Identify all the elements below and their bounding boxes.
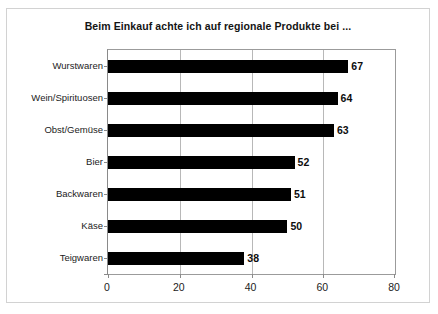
- y-tick-6: [104, 258, 108, 259]
- bar-value-label: 67: [351, 60, 363, 73]
- y-tick-4: [104, 194, 108, 195]
- bar-value-label: 51: [294, 188, 306, 201]
- category-label: Teigwaren: [60, 251, 103, 264]
- bar-value-label: 50: [290, 220, 302, 233]
- bar: [108, 252, 244, 265]
- x-tick-20: [180, 274, 181, 278]
- bar-value-label: 64: [341, 92, 353, 105]
- x-tick-label: 40: [245, 281, 257, 293]
- bar-value-label: 63: [337, 124, 349, 137]
- category-label: Wurstwaren: [52, 59, 103, 72]
- bar: [108, 220, 287, 233]
- category-label: Wein/Spirituosen: [31, 91, 103, 104]
- plot-area: 67646352515038: [107, 49, 396, 275]
- x-tick-label: 0: [104, 281, 110, 293]
- x-tick-0: [108, 274, 109, 278]
- bar: [108, 60, 348, 73]
- x-tick-label: 80: [388, 281, 400, 293]
- chart-title: Beim Einkauf achte ich auf regionale Pro…: [7, 20, 429, 32]
- x-tick-label: 60: [316, 281, 328, 293]
- x-tick-40: [252, 274, 253, 278]
- gridline-x-60: [323, 50, 324, 274]
- y-tick-1: [104, 98, 108, 99]
- bar: [108, 124, 334, 137]
- category-label: Käse: [81, 219, 103, 232]
- y-tick-5: [104, 226, 108, 227]
- bar-value-label: 38: [247, 252, 259, 265]
- category-label: Backwaren: [56, 187, 103, 200]
- y-tick-0: [104, 66, 108, 67]
- bar: [108, 92, 338, 105]
- bar-value-label: 52: [298, 156, 310, 169]
- bar: [108, 156, 295, 169]
- x-tick-80: [394, 274, 395, 278]
- x-tick-60: [323, 274, 324, 278]
- bar: [108, 188, 291, 201]
- category-label: Bier: [86, 155, 103, 168]
- chart-figure: Beim Einkauf achte ich auf regionale Pro…: [6, 8, 430, 303]
- y-axis-category-labels: WurstwarenWein/SpirituosenObst/GemüseBie…: [7, 49, 103, 273]
- y-tick-2: [104, 130, 108, 131]
- category-label: Obst/Gemüse: [44, 123, 103, 136]
- y-tick-3: [104, 162, 108, 163]
- x-tick-label: 20: [173, 281, 185, 293]
